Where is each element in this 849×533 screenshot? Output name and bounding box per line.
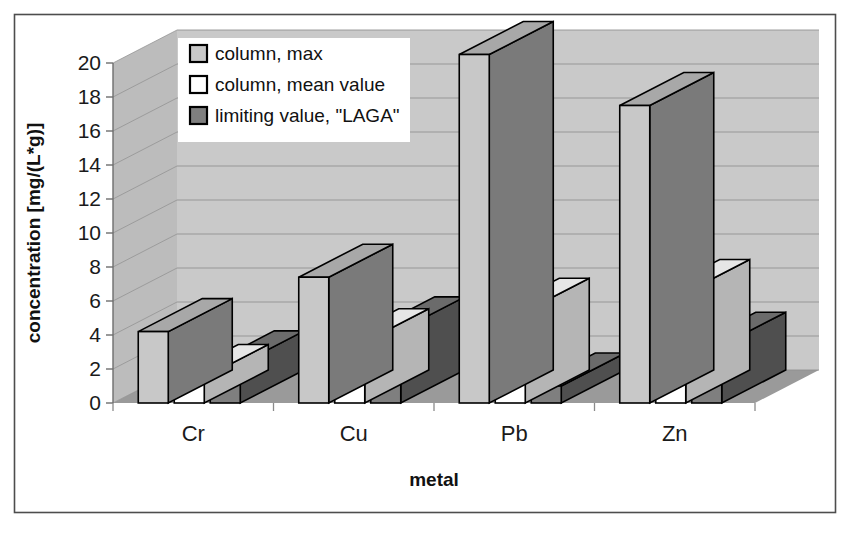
bar-zn-s1 bbox=[620, 73, 714, 404]
y-axis-tick-label: 2 bbox=[89, 357, 101, 380]
bar-side-face bbox=[489, 22, 553, 404]
x-axis-title: metal bbox=[409, 469, 459, 490]
legend-item[interactable]: column, mean value bbox=[190, 74, 385, 95]
x-axis-category-label: Zn bbox=[662, 421, 688, 446]
y-axis-tick-label: 12 bbox=[78, 187, 101, 210]
legend: column, maxcolumn, mean valuelimiting va… bbox=[178, 38, 410, 142]
legend-swatch-light-gray bbox=[190, 45, 207, 62]
bar-chart-3d: 20181614121086420concentration [mg/(L*g)… bbox=[0, 0, 849, 533]
bar-pb-s1 bbox=[459, 22, 553, 404]
x-axis-category-label: Cu bbox=[340, 421, 368, 446]
y-axis-tick-label: 8 bbox=[89, 255, 101, 278]
legend-item-label: column, mean value bbox=[215, 74, 385, 95]
y-axis-tick-label: 20 bbox=[78, 51, 101, 74]
x-axis-category-label: Pb bbox=[501, 421, 528, 446]
y-axis-tick-label: 10 bbox=[78, 221, 101, 244]
y-axis-tick-label: 14 bbox=[78, 153, 102, 176]
chart-canvas: 20181614121086420concentration [mg/(L*g)… bbox=[15, 15, 836, 513]
legend-swatch-dark-gray bbox=[190, 107, 207, 124]
y-axis-title: concentration [mg/(L*g)] bbox=[23, 123, 44, 344]
bar-front-face bbox=[299, 277, 329, 403]
bar-front-face bbox=[138, 332, 168, 403]
x-axis-category-label: Cr bbox=[182, 421, 205, 446]
bar-side-face bbox=[650, 73, 714, 404]
bar-front-face bbox=[620, 106, 650, 404]
y-axis-tick-label: 18 bbox=[78, 85, 101, 108]
y-axis-tick-label: 16 bbox=[78, 119, 101, 142]
y-axis-tick-label: 6 bbox=[89, 289, 101, 312]
legend-swatch-white bbox=[190, 76, 207, 93]
legend-item-label: limiting value, "LAGA" bbox=[215, 105, 400, 126]
chart-figure: 20181614121086420concentration [mg/(L*g)… bbox=[0, 0, 849, 533]
bar-front-face bbox=[459, 55, 489, 404]
y-axis-tick-label: 4 bbox=[89, 323, 101, 346]
legend-item[interactable]: limiting value, "LAGA" bbox=[190, 105, 400, 126]
legend-item-label: column, max bbox=[215, 43, 323, 64]
y-axis-tick-label: 0 bbox=[89, 391, 101, 414]
